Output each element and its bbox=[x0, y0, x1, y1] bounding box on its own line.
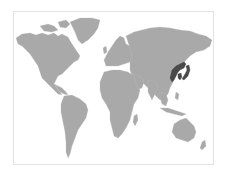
south-america bbox=[61, 95, 88, 158]
british-isles bbox=[103, 46, 107, 54]
greenland bbox=[70, 18, 100, 44]
arctic-islands bbox=[40, 24, 58, 32]
philippines bbox=[175, 92, 179, 100]
highlight-korea bbox=[178, 73, 182, 80]
australia bbox=[172, 118, 196, 142]
north-america bbox=[16, 33, 80, 95]
africa bbox=[100, 70, 140, 138]
indonesia bbox=[160, 108, 186, 116]
new-zealand bbox=[200, 140, 206, 150]
arctic-islands-2 bbox=[58, 20, 70, 28]
madagascar bbox=[133, 114, 138, 126]
world-map bbox=[0, 0, 230, 176]
